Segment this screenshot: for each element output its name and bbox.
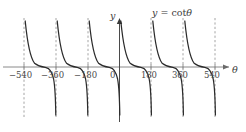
cotangent-graph-figure: y = cotθ y θ −540 −360 −180 0 180 360 54…	[0, 0, 246, 132]
x-tick-label-zero: 0	[110, 70, 115, 80]
curve-branch-4	[121, 21, 152, 115]
curve-branch-2	[57, 21, 88, 115]
x-tick-label-180: 180	[141, 70, 157, 80]
y-axis-label: y	[110, 10, 115, 21]
curve-branch-6	[185, 21, 216, 115]
x-tick-label-360: 360	[172, 70, 188, 80]
x-axis-arrowhead	[223, 64, 229, 69]
x-tick-label-minus360: −360	[41, 70, 64, 80]
curve-branch-1	[25, 21, 56, 115]
equation-equals: =	[160, 7, 168, 18]
cotangent-curve	[25, 21, 215, 115]
equation-lhs: y	[152, 7, 157, 18]
equation-function: cot	[171, 7, 186, 18]
equation-variable: θ	[186, 7, 192, 18]
equation-label: y = cotθ	[152, 7, 192, 18]
plot-canvas	[0, 0, 246, 132]
x-axis-label: θ	[232, 64, 238, 75]
x-tick-label-540: 540	[204, 70, 220, 80]
curve-branch-5	[153, 21, 184, 115]
x-tick-label-minus180: −180	[74, 70, 97, 80]
x-tick-label-minus540: −540	[9, 70, 32, 80]
curve-branch-3	[89, 21, 120, 115]
